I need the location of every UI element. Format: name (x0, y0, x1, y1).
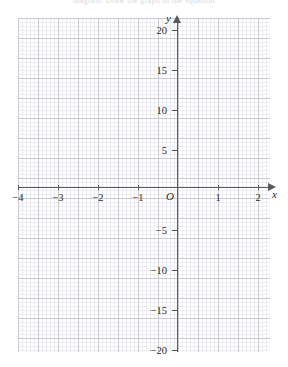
x-axis-tick-label: −1 (126, 192, 150, 203)
x-axis-tick (58, 185, 59, 190)
x-axis-tick (138, 185, 139, 190)
y-axis-tick-label: 5 (141, 145, 167, 156)
x-axis-tick-label: 1 (206, 192, 230, 203)
clipped-header-text: diagram. Draw the graph of the equation (0, 0, 288, 5)
y-axis-tick-label: 20 (141, 25, 167, 36)
y-axis-tick-label: 10 (141, 105, 167, 116)
x-axis-tick (98, 185, 99, 190)
graph-page: diagram. Draw the graph of the equation … (0, 0, 288, 367)
y-axis-tick (172, 230, 177, 231)
x-axis-line (18, 187, 271, 188)
x-axis-tick-label: −4 (6, 192, 30, 203)
x-axis-tick-label: −2 (86, 192, 110, 203)
y-axis-arrow-icon (173, 15, 181, 23)
y-axis-tick-label: −15 (141, 305, 167, 316)
y-axis-tick-label: −10 (141, 265, 167, 276)
x-axis-tick-label: 2 (246, 192, 270, 203)
x-axis-label: x (272, 188, 277, 200)
y-axis-tick-label: −20 (141, 345, 167, 356)
y-axis-label: y (166, 12, 171, 24)
y-axis-tick (172, 70, 177, 71)
y-axis-tick (172, 150, 177, 151)
y-axis-tick (172, 310, 177, 311)
x-axis-tick (258, 185, 259, 190)
y-axis-tick (172, 270, 177, 271)
origin-label: O (166, 190, 174, 202)
y-axis-tick-label: 15 (141, 65, 167, 76)
y-axis-tick (172, 30, 177, 31)
y-axis-tick-label: −5 (141, 225, 167, 236)
y-axis-tick (172, 110, 177, 111)
x-axis-tick (218, 185, 219, 190)
y-axis-line (177, 22, 178, 352)
x-axis-tick (18, 185, 19, 190)
x-axis-tick-label: −3 (46, 192, 70, 203)
y-axis-tick (172, 350, 177, 351)
